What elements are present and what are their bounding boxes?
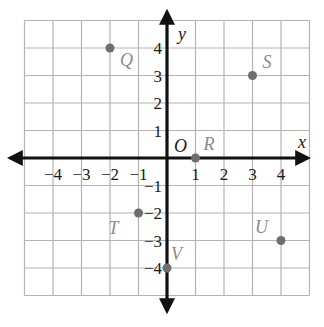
x-tick-label: 4 [277, 165, 286, 184]
point-label-r: R [203, 134, 215, 154]
x-tick-label: −2 [101, 165, 119, 184]
y-axis-label: y [176, 24, 186, 44]
y-tick-label: −4 [144, 259, 163, 278]
point-label-u: U [255, 217, 269, 237]
y-tick-label: 4 [154, 39, 163, 58]
x-tick-label: 2 [220, 165, 229, 184]
point-r [191, 154, 200, 163]
point-u [277, 236, 286, 245]
point-q [106, 44, 115, 53]
y-tick-label: −2 [144, 204, 162, 223]
point-label-v: V [171, 244, 184, 264]
point-label-t: T [109, 218, 121, 238]
x-tick-label: 1 [191, 165, 200, 184]
y-tick-label: 2 [154, 94, 163, 113]
point-label-s: S [263, 52, 272, 72]
x-axis-label: x [297, 132, 306, 152]
x-tick-label: −4 [44, 165, 63, 184]
origin-label: O [174, 136, 187, 156]
x-tick-label: −3 [72, 165, 90, 184]
point-v [163, 264, 172, 273]
coordinate-plane: x y O −4−3−2−112344321−1−2−3−4 QSRTUV [0, 0, 324, 327]
point-label-q: Q [120, 50, 133, 70]
y-tick-label: 3 [154, 67, 163, 86]
y-tick-label: −3 [144, 232, 162, 251]
y-tick-label: 1 [154, 122, 163, 141]
y-tick-label: −1 [144, 177, 162, 196]
x-tick-label: 3 [248, 165, 257, 184]
point-s [248, 71, 257, 80]
point-t [134, 209, 143, 218]
